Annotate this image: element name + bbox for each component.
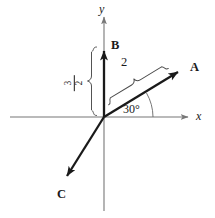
angle-label-30: 30°: [123, 103, 140, 115]
vector-diagram-figure: x y B A C 2 30° 3 2: [0, 0, 215, 218]
magnitude-label-a: 2: [121, 56, 127, 69]
vector-a-label: A: [190, 61, 199, 74]
brace-b-magnitude: [88, 47, 97, 116]
diagram-canvas: [0, 0, 215, 218]
vector-a-label-b: B: [111, 39, 119, 52]
magnitude-label-b: 3 2: [64, 75, 84, 91]
x-axis-label: x: [196, 110, 201, 122]
y-axis-label: y: [99, 3, 104, 15]
vector-c-label: C: [57, 188, 66, 201]
fraction-denominator: 2: [74, 75, 85, 91]
fraction-numerator: 3: [64, 75, 74, 91]
vector-c-arrow: [67, 117, 104, 176]
angle-arc-30: [147, 93, 154, 117]
